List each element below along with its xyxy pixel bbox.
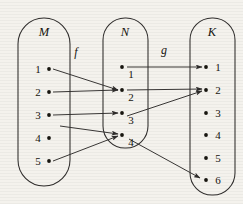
set-ovals-group bbox=[18, 18, 235, 195]
mapping-arrow-m2-to-n2 bbox=[53, 90, 118, 92]
mapping-arrow-n2-to-k2 bbox=[127, 89, 202, 90]
element-label-m-4: 4 bbox=[35, 132, 41, 144]
element-label-m-3: 3 bbox=[35, 109, 41, 121]
function-composition-diagram: M12345N1234K123456fg bbox=[0, 0, 243, 204]
element-dot-n-2 bbox=[120, 88, 124, 92]
diagram-canvas: M12345N1234K123456fg bbox=[0, 0, 243, 204]
element-dot-n-3 bbox=[120, 111, 124, 115]
element-dot-n-1 bbox=[120, 65, 124, 69]
mapping-arrow-m3-to-n3 bbox=[53, 113, 118, 115]
set-label-k: K bbox=[207, 25, 217, 39]
element-dot-k-6 bbox=[204, 178, 208, 182]
element-label-k-4: 4 bbox=[215, 129, 221, 141]
element-label-k-5: 5 bbox=[215, 152, 221, 164]
element-label-n-2: 2 bbox=[128, 91, 134, 103]
element-label-n-4: 4 bbox=[128, 136, 134, 148]
element-label-k-1: 1 bbox=[215, 61, 221, 73]
set-label-m: M bbox=[38, 25, 50, 39]
element-label-m-1: 1 bbox=[35, 63, 41, 75]
element-label-n-1: 1 bbox=[128, 68, 134, 80]
function-label-g: g bbox=[161, 43, 167, 57]
element-dot-n-4 bbox=[120, 133, 124, 137]
element-label-n-3: 3 bbox=[128, 114, 134, 126]
mapping-arrow-m1-to-n2 bbox=[53, 69, 118, 90]
set-oval-m bbox=[18, 18, 70, 186]
element-label-m-5: 5 bbox=[35, 155, 41, 167]
element-dot-k-1 bbox=[204, 65, 208, 69]
diagram-labels-group: M12345N1234K123456fg bbox=[35, 25, 221, 186]
element-label-k-3: 3 bbox=[215, 107, 221, 119]
mapping-arrow-n3-to-k2 bbox=[127, 91, 202, 116]
element-dot-m-1 bbox=[47, 67, 51, 71]
mapping-arrow-m4-to-n4 bbox=[60, 126, 118, 134]
element-dot-m-5 bbox=[47, 159, 51, 163]
element-label-k-2: 2 bbox=[215, 84, 221, 96]
element-label-k-6: 6 bbox=[215, 174, 221, 186]
element-dot-m-4 bbox=[47, 136, 51, 140]
element-label-m-2: 2 bbox=[35, 86, 41, 98]
element-dot-k-4 bbox=[204, 133, 208, 137]
mapping-arrow-n4-to-k6 bbox=[129, 139, 200, 178]
element-dot-m-2 bbox=[47, 90, 51, 94]
mapping-arrow-m5-to-n4 bbox=[53, 136, 118, 161]
element-dot-k-3 bbox=[204, 111, 208, 115]
set-label-n: N bbox=[120, 25, 130, 39]
element-dot-k-5 bbox=[204, 156, 208, 160]
element-dot-k-2 bbox=[204, 88, 208, 92]
function-label-f: f bbox=[74, 45, 79, 59]
element-dot-m-3 bbox=[47, 113, 51, 117]
set-oval-k bbox=[190, 18, 235, 195]
